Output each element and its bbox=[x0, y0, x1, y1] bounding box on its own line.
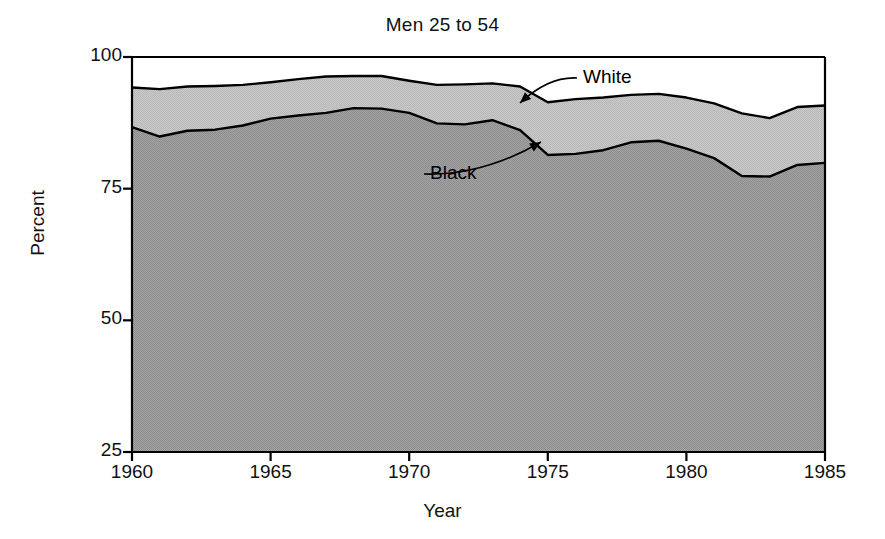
series-annotation-label: Black bbox=[430, 162, 476, 184]
y-tick-label: 75 bbox=[62, 176, 122, 198]
area-chart-plot bbox=[0, 0, 885, 539]
x-tick-label: 1980 bbox=[641, 461, 731, 483]
x-tick-label: 1970 bbox=[364, 461, 454, 483]
chart-title: Men 25 to 54 bbox=[0, 14, 885, 36]
y-tick-label: 100 bbox=[62, 44, 122, 66]
x-tick-label: 1975 bbox=[503, 461, 593, 483]
y-tick-label: 50 bbox=[62, 307, 122, 329]
y-axis-label: Percent bbox=[27, 153, 49, 293]
x-tick-label: 1965 bbox=[226, 461, 316, 483]
series-annotation-label: White bbox=[583, 66, 632, 88]
x-tick-label: 1960 bbox=[87, 461, 177, 483]
x-tick-label: 1985 bbox=[780, 461, 870, 483]
y-tick-label: 25 bbox=[62, 439, 122, 461]
chart-figure: Men 25 to 54 Percent Year 255075100 1960… bbox=[0, 0, 885, 539]
x-axis-label: Year bbox=[0, 500, 885, 522]
x-axis-ticks: 196019651970197519801985 bbox=[0, 461, 885, 487]
series-fill-areas bbox=[132, 76, 825, 452]
